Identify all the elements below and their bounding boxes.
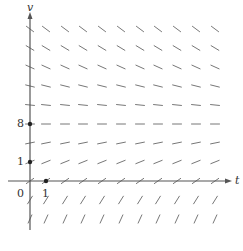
slope-segment bbox=[173, 105, 182, 106]
slope-segment bbox=[117, 142, 126, 144]
slope-segment bbox=[192, 160, 200, 163]
slope-segment bbox=[61, 160, 69, 163]
slope-segment bbox=[42, 142, 51, 144]
slope-segment bbox=[175, 215, 179, 223]
y-axis-label: v bbox=[27, 2, 33, 13]
slope-segment bbox=[63, 215, 67, 223]
slope-segment bbox=[44, 215, 48, 223]
slope-segment bbox=[211, 65, 219, 69]
x-axis-arrow-icon bbox=[225, 179, 232, 184]
slope-segment bbox=[173, 65, 181, 69]
slope-segment bbox=[136, 142, 145, 144]
slope-segment bbox=[98, 105, 107, 106]
slope-segment bbox=[136, 46, 144, 51]
slope-segment bbox=[173, 46, 181, 51]
slope-segment bbox=[154, 160, 162, 163]
slope-segment bbox=[136, 65, 144, 69]
slope-segment bbox=[136, 160, 144, 163]
slope-segment bbox=[117, 65, 125, 69]
slope-segment bbox=[138, 196, 143, 204]
x-tick-label-1: 1 bbox=[42, 188, 49, 199]
slope-segment bbox=[79, 85, 88, 87]
slope-segment bbox=[81, 196, 86, 204]
slope-segment bbox=[98, 65, 106, 69]
slope-segment bbox=[79, 26, 86, 31]
slope-segment bbox=[42, 85, 51, 87]
slope-segment bbox=[154, 142, 163, 144]
slope-segment bbox=[100, 215, 104, 223]
slope-segment bbox=[173, 142, 182, 144]
slope-segment bbox=[138, 215, 142, 223]
slope-segment bbox=[117, 85, 126, 87]
point-v8 bbox=[28, 122, 32, 126]
slope-segment bbox=[213, 215, 217, 223]
slope-segment bbox=[211, 160, 219, 163]
slope-segment bbox=[173, 26, 180, 31]
slope-segment bbox=[136, 26, 143, 31]
slope-segment bbox=[119, 196, 124, 204]
slope-segment bbox=[136, 85, 145, 87]
slope-segment bbox=[192, 26, 199, 31]
slope-segment bbox=[154, 105, 163, 106]
point-t1 bbox=[44, 179, 48, 183]
slope-segment bbox=[211, 46, 219, 51]
slope-field-diagram bbox=[0, 0, 243, 251]
y-tick-label-1: 1 bbox=[17, 156, 24, 167]
slope-segment bbox=[100, 196, 105, 204]
slope-segment bbox=[175, 196, 180, 204]
slope-segment bbox=[79, 142, 88, 144]
slope-segment bbox=[156, 196, 161, 204]
slope-segment bbox=[61, 26, 68, 31]
slope-segment bbox=[192, 105, 201, 106]
slope-segment bbox=[117, 46, 125, 51]
slope-segment bbox=[81, 215, 85, 223]
slope-segment bbox=[173, 160, 181, 163]
slope-segment bbox=[42, 160, 50, 163]
slope-segment bbox=[98, 142, 107, 144]
slope-segment bbox=[119, 215, 123, 223]
slope-segments bbox=[26, 26, 220, 223]
slope-segment bbox=[61, 142, 70, 144]
slope-segment bbox=[194, 215, 198, 223]
slope-segment bbox=[61, 46, 69, 51]
slope-segment bbox=[79, 105, 88, 106]
slope-segment bbox=[98, 46, 106, 51]
origin-label: 0 bbox=[17, 188, 24, 199]
slope-segment bbox=[42, 26, 49, 31]
slope-segment bbox=[211, 85, 220, 87]
slope-segment bbox=[79, 160, 87, 163]
slope-segment bbox=[154, 85, 163, 87]
slope-segment bbox=[42, 65, 50, 69]
y-tick-label-8: 8 bbox=[17, 118, 24, 129]
slope-segment bbox=[79, 65, 87, 69]
x-axis-label: t bbox=[235, 175, 239, 186]
slope-segment bbox=[156, 215, 160, 223]
slope-segment bbox=[192, 46, 200, 51]
slope-segment bbox=[192, 142, 201, 144]
slope-segment bbox=[154, 26, 161, 31]
slope-segment bbox=[63, 196, 68, 204]
slope-segment bbox=[98, 160, 106, 163]
slope-segment bbox=[98, 26, 105, 31]
slope-segment bbox=[117, 160, 125, 163]
slope-segment bbox=[173, 85, 182, 87]
slope-segment bbox=[192, 85, 201, 87]
slope-segment bbox=[194, 196, 199, 204]
slope-segment bbox=[117, 26, 124, 31]
slope-segment bbox=[61, 85, 70, 87]
slope-segment bbox=[154, 46, 162, 51]
slope-segment bbox=[211, 26, 218, 31]
slope-segment bbox=[98, 85, 107, 87]
slope-segment bbox=[211, 105, 220, 106]
slope-segment bbox=[154, 65, 162, 69]
slope-segment bbox=[79, 46, 87, 51]
slope-segment bbox=[61, 105, 70, 106]
slope-segment bbox=[42, 46, 50, 51]
slope-segment bbox=[213, 196, 218, 204]
slope-segment bbox=[136, 105, 145, 106]
slope-segment bbox=[42, 105, 51, 106]
slope-segment bbox=[61, 65, 69, 69]
marked-points bbox=[28, 122, 48, 183]
slope-segment bbox=[211, 142, 220, 144]
point-v1 bbox=[28, 160, 32, 164]
